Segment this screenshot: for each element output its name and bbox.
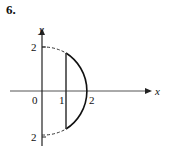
y-tick-2: 2 xyxy=(31,41,37,53)
region-figure: y x 2 2 0 1 2 xyxy=(0,0,169,157)
dashed-arc-bottom xyxy=(42,129,66,135)
origin-label: 0 xyxy=(32,94,38,106)
y-label: y xyxy=(38,23,44,35)
y-tick-neg2: 2 xyxy=(31,131,37,143)
dashed-arc-top xyxy=(42,47,66,53)
x-tick-1: 1 xyxy=(59,94,65,106)
x-tick-2: 2 xyxy=(89,94,95,106)
x-axis-arrow-icon xyxy=(145,88,152,94)
x-label: x xyxy=(154,85,160,97)
